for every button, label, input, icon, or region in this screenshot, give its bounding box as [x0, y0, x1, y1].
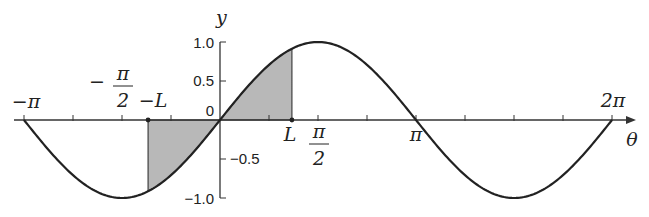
- y-label-neg-1.0: −1.0: [184, 190, 214, 207]
- x-axis-arrow-icon: [626, 116, 636, 124]
- point-L: [290, 118, 295, 123]
- x-label-half-pi-denominator: 2: [312, 147, 325, 169]
- x-label-neg-half-pi-numerator: π: [116, 62, 130, 84]
- x-label-two-pi: 2π: [600, 89, 626, 111]
- x-label-L: L: [283, 123, 297, 145]
- x-label-half-pi-numerator: π: [312, 120, 326, 142]
- sine-graph: y 1.0 0.5 0 −0.5 −1.0 −π − π 2 −L L π 2 …: [0, 0, 649, 217]
- point-neg-L: [146, 118, 151, 123]
- y-label-neg-0.5: −0.5: [230, 150, 260, 167]
- x-label-neg-pi: −π: [12, 90, 41, 112]
- y-label-1.0: 1.0: [193, 34, 214, 51]
- y-axis-label: y: [215, 6, 227, 28]
- y-label-0: 0: [206, 102, 214, 119]
- x-label-pi: π: [409, 123, 423, 145]
- x-axis-label: θ: [626, 128, 638, 150]
- x-label-neg-half-pi-denominator: 2: [116, 89, 129, 111]
- y-label-0.5: 0.5: [193, 72, 214, 89]
- x-label-neg-L: −L: [139, 89, 168, 111]
- x-label-neg-half-pi-minus: −: [89, 70, 105, 92]
